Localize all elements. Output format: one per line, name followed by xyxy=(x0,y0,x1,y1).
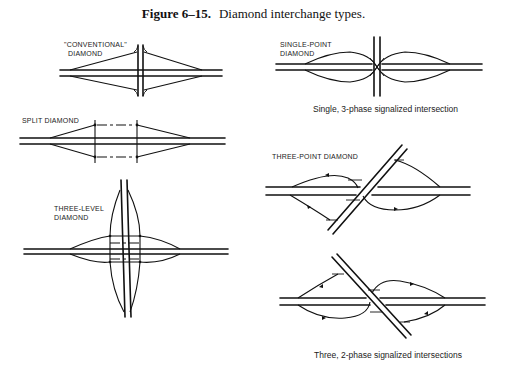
interchange-diagrams xyxy=(0,0,507,387)
three-point-diamond-diagram-1 xyxy=(266,145,470,234)
three-point-diamond-diagram-2 xyxy=(280,254,485,338)
split-diamond-diagram xyxy=(20,120,225,163)
single-point-diamond-diagram xyxy=(276,37,482,96)
three-level-diamond-diagram xyxy=(24,180,228,317)
conventional-diamond-diagram xyxy=(60,45,222,96)
